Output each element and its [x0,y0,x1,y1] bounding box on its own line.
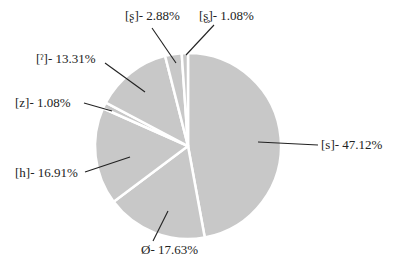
pie-slice [188,53,281,237]
slice-label-h: [h]- 16.91% [15,166,78,180]
leader-retroflex-voiceless [186,25,214,55]
slice-label-z: [z]- 1.08% [15,96,71,110]
slice-label-retroflex-voiceless: [ʂ̥]- 1.08% [199,9,254,23]
slice-label-glottal: [ˀ]- 13.31% [36,52,96,66]
slice-label-s: [s]- 47.12% [321,138,382,152]
slice-label-null: Ø- 17.63% [141,243,198,257]
pie-slices [95,53,281,239]
slice-label-retroflex: [ʂ]- 2.88% [125,9,180,23]
pie-chart [0,0,393,269]
